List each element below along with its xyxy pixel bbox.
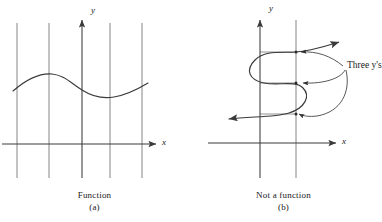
annotation-leader-lines	[299, 52, 347, 117]
caption-b-title: Not a function	[189, 189, 378, 201]
panel-a-graph	[0, 0, 189, 189]
panel-b-y-axis-label: y	[269, 3, 273, 13]
intersection-point	[295, 82, 298, 85]
three-ys-annotation: Three y's	[347, 60, 382, 70]
caption-a-title: Function	[0, 189, 189, 201]
caption-a-letter: (a)	[0, 201, 189, 213]
caption-panel-b: Not a function (b)	[189, 189, 378, 213]
non-function-curve	[229, 43, 336, 119]
leader-line-to-intersection-2	[303, 70, 345, 83]
function-curve	[13, 74, 148, 98]
panel-b-graph	[189, 0, 378, 189]
leader-line-to-intersection-1	[301, 52, 343, 66]
panel-a-x-axis-label: x	[162, 137, 166, 147]
panel-b-x-axis-label: x	[342, 136, 346, 146]
vertical-test-lines	[17, 23, 142, 178]
intersection-point	[295, 51, 298, 54]
panel-a-y-axis-label: y	[91, 5, 95, 15]
non-function-curve-arrow-right	[336, 42, 339, 43]
intersection-point	[295, 113, 298, 116]
caption-b-letter: (b)	[189, 201, 378, 213]
caption-panel-a: Function (a)	[0, 189, 189, 213]
